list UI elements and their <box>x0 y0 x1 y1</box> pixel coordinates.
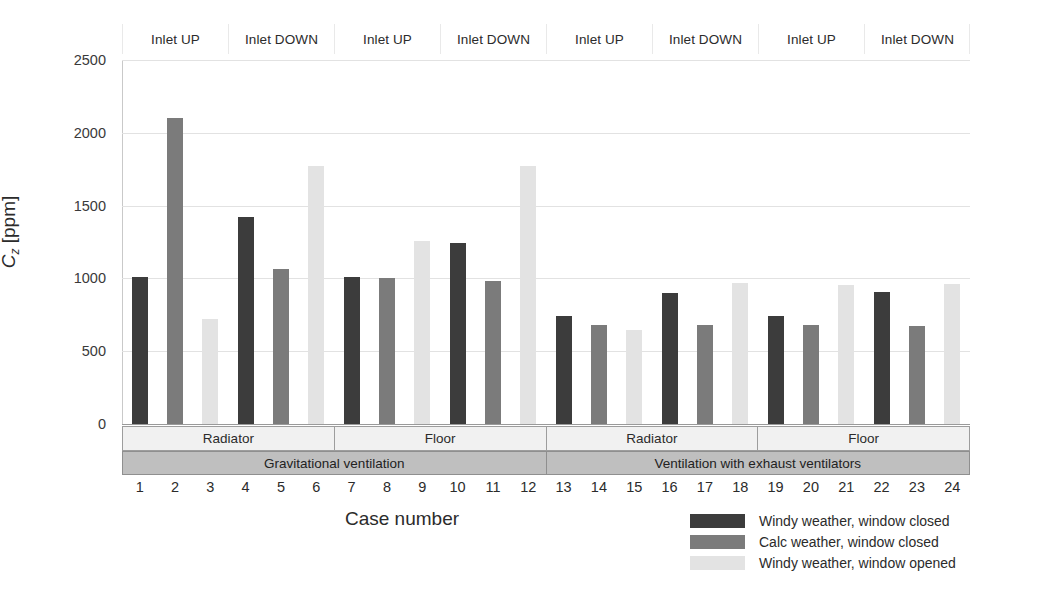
case-number-label: 6 <box>299 479 334 501</box>
legend-swatch-icon <box>690 556 745 570</box>
chart-canvas: Inlet UPInlet DOWNInlet UPInlet DOWNInle… <box>0 0 1040 616</box>
case-number-label: 19 <box>758 479 793 501</box>
bar <box>838 285 854 424</box>
bar <box>591 325 607 424</box>
legend-swatch-icon <box>690 514 745 528</box>
heating-band-cell: Radiator <box>546 426 759 451</box>
legend-item: Calc weather, window closed <box>690 531 956 552</box>
legend-item: Windy weather, window opened <box>690 552 956 573</box>
ventilation-system-band: Gravitational ventilationVentilation wit… <box>122 451 970 475</box>
heating-band-cell: Floor <box>334 426 547 451</box>
y-tick-label: 2500 <box>44 52 106 68</box>
legend-label: Calc weather, window closed <box>759 534 939 550</box>
y-tick-label: 2000 <box>44 125 106 141</box>
case-number-label: 11 <box>475 479 510 501</box>
ventilation-band-cell: Ventilation with exhaust ventilators <box>546 451 971 475</box>
y-axis-title-symbol: C <box>0 255 19 269</box>
case-number-label: 9 <box>405 479 440 501</box>
bar <box>874 292 890 424</box>
inlet-band-cell: Inlet UP <box>334 24 440 54</box>
ventilation-band-cell: Gravitational ventilation <box>122 451 547 475</box>
y-axis-title-subscript: z <box>8 249 22 255</box>
case-number-label: 4 <box>228 479 263 501</box>
bar <box>768 316 784 424</box>
bar <box>626 330 642 424</box>
bar <box>485 281 501 424</box>
case-number-label: 21 <box>829 479 864 501</box>
heating-band-cell: Floor <box>757 426 970 451</box>
case-number-label: 15 <box>617 479 652 501</box>
y-axis-tick-labels: 05001000150020002500 <box>44 0 106 616</box>
bar <box>697 325 713 424</box>
bar <box>308 166 324 424</box>
case-number-label: 16 <box>652 479 687 501</box>
bar <box>202 319 218 424</box>
chart-legend: Windy weather, window closedCalc weather… <box>690 510 956 573</box>
case-number-label: 22 <box>864 479 899 501</box>
case-number-label: 17 <box>687 479 722 501</box>
gridline <box>122 206 970 207</box>
gridline <box>122 133 970 134</box>
bar <box>379 278 395 424</box>
legend-item: Windy weather, window closed <box>690 510 956 531</box>
case-number-label: 13 <box>546 479 581 501</box>
inlet-band-cell: Inlet UP <box>546 24 652 54</box>
x-axis-line <box>122 424 970 425</box>
legend-label: Windy weather, window opened <box>759 555 956 571</box>
gridline <box>122 60 970 61</box>
heating-band-cell: Radiator <box>122 426 335 451</box>
bar <box>662 293 678 424</box>
case-number-label: 8 <box>369 479 404 501</box>
case-number-label: 5 <box>263 479 298 501</box>
bar <box>556 316 572 424</box>
inlet-band-cell: Inlet UP <box>122 24 228 54</box>
legend-swatch-icon <box>690 535 745 549</box>
bar <box>909 326 925 424</box>
inlet-band-cell: Inlet UP <box>758 24 864 54</box>
bar <box>803 325 819 424</box>
y-tick-label: 1000 <box>44 270 106 286</box>
case-number-label: 12 <box>511 479 546 501</box>
bar <box>238 217 254 424</box>
legend-label: Windy weather, window closed <box>759 513 950 529</box>
y-tick-label: 0 <box>44 416 106 432</box>
inlet-band-cell: Inlet DOWN <box>652 24 758 54</box>
inlet-band-cell: Inlet DOWN <box>864 24 970 54</box>
inlet-direction-band: Inlet UPInlet DOWNInlet UPInlet DOWNInle… <box>122 24 970 54</box>
bar <box>344 277 360 424</box>
case-number-label: 23 <box>899 479 934 501</box>
x-axis-tick-labels: 123456789101112131415161718192021222324 <box>122 479 970 501</box>
bar <box>167 118 183 424</box>
inlet-band-cell: Inlet DOWN <box>440 24 546 54</box>
case-number-label: 1 <box>122 479 157 501</box>
case-number-label: 14 <box>581 479 616 501</box>
bar <box>450 243 466 424</box>
case-number-label: 10 <box>440 479 475 501</box>
bar <box>520 166 536 424</box>
bar <box>132 277 148 424</box>
heating-system-band: RadiatorFloorRadiatorFloor <box>122 426 970 451</box>
y-axis-title-unit: [ppm] <box>0 196 19 249</box>
case-number-label: 18 <box>723 479 758 501</box>
y-axis-line <box>122 60 123 424</box>
y-tick-label: 1500 <box>44 198 106 214</box>
case-number-label: 2 <box>157 479 192 501</box>
bar <box>732 283 748 424</box>
case-number-label: 24 <box>935 479 970 501</box>
x-axis-title: Case number <box>122 508 682 530</box>
inlet-band-cell: Inlet DOWN <box>228 24 334 54</box>
plot-area <box>122 60 970 424</box>
case-number-label: 3 <box>193 479 228 501</box>
y-axis-title: Cz [ppm] <box>0 196 22 269</box>
bar <box>273 269 289 424</box>
case-number-label: 20 <box>793 479 828 501</box>
bar <box>944 284 960 424</box>
y-tick-label: 500 <box>44 343 106 359</box>
case-number-label: 7 <box>334 479 369 501</box>
bar <box>414 241 430 424</box>
